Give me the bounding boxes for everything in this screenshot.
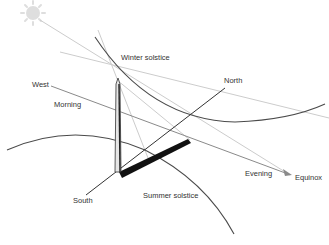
- label-equinox: Equinox: [295, 174, 322, 182]
- winter-solstice-arc: [95, 37, 325, 122]
- label-winter-solstice: Winter solstice: [121, 54, 170, 62]
- equinox-line: [51, 86, 292, 176]
- label-morning: Morning: [54, 101, 81, 109]
- obelisk: [115, 78, 121, 172]
- label-summer-solstice: Summer solstice: [143, 192, 198, 200]
- label-south: South: [73, 197, 93, 205]
- label-evening: Evening: [245, 170, 272, 178]
- sundial-diagram: [0, 0, 329, 245]
- label-west: West: [32, 81, 49, 89]
- label-north: North: [224, 77, 242, 85]
- arrow-icon: [283, 169, 292, 176]
- north-south-line: [86, 88, 225, 195]
